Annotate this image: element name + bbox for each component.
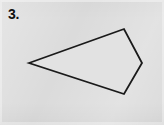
- quadrilateral-figure: [0, 0, 164, 125]
- figure-panel: 3.: [0, 0, 164, 125]
- quadrilateral-outline: [29, 29, 142, 94]
